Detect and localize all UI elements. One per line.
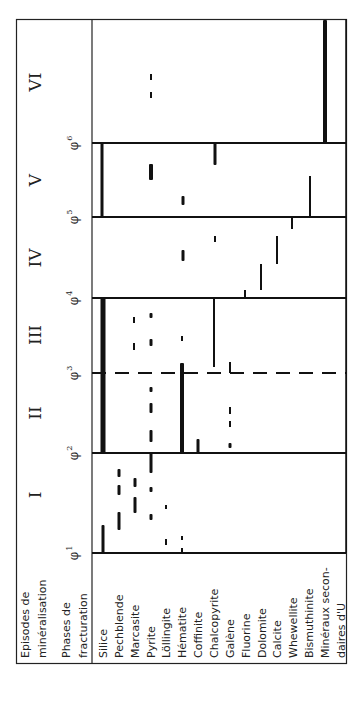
bar-galène bbox=[229, 407, 231, 414]
bar-silice bbox=[101, 298, 106, 453]
bar-minéraux-secondaires-d-u bbox=[323, 20, 327, 143]
bar-marcasite bbox=[134, 497, 137, 513]
bar-pyrite bbox=[149, 164, 153, 180]
bar-pyrite bbox=[150, 74, 152, 80]
mineral-label: Marcasite bbox=[129, 605, 142, 658]
bar-marcasite bbox=[133, 317, 135, 323]
bar-pyrite bbox=[150, 387, 153, 392]
bar-bismuthinite bbox=[309, 176, 311, 217]
bar-pechblende bbox=[118, 469, 121, 477]
episode-label: IV bbox=[25, 248, 45, 268]
bar-chalcopyrite bbox=[214, 143, 217, 165]
mineral-paragenesis-diagram: IIIIIIIVVVI φ1φ2φ3φ4φ5φ6 SilicePechblend… bbox=[0, 0, 361, 708]
episode-label: I bbox=[25, 492, 45, 499]
bar-pyrite bbox=[150, 92, 152, 98]
header-label: fracturation bbox=[77, 593, 90, 658]
episode-label: VI bbox=[25, 73, 45, 93]
bar-coffinite bbox=[197, 439, 200, 453]
bar-hématite bbox=[181, 336, 183, 341]
header-label: Phases de bbox=[60, 602, 73, 658]
bar-löllingite bbox=[165, 505, 167, 509]
mineral-label: daires d'U bbox=[335, 603, 348, 658]
bar-galène bbox=[229, 421, 231, 427]
mineral-label: Bismuthinite bbox=[303, 588, 316, 658]
mineral-label: Dolomite bbox=[256, 608, 269, 658]
bar-pechblende bbox=[118, 485, 121, 495]
bar-galène bbox=[229, 443, 232, 448]
bar-hématite bbox=[180, 363, 184, 453]
mineral-label: Minéraux secon- bbox=[319, 567, 332, 658]
mineral-label: Silice bbox=[97, 629, 110, 658]
episode-label: III bbox=[25, 325, 45, 345]
mineral-label: Hématite bbox=[176, 607, 189, 658]
bar-pyrite bbox=[150, 487, 153, 492]
bar-hématite bbox=[182, 250, 185, 261]
mineral-label: Whewellite bbox=[287, 597, 300, 658]
bar-fluorine bbox=[244, 290, 246, 298]
bar-silice bbox=[101, 143, 104, 217]
bar-pechblende bbox=[118, 512, 121, 530]
bar-calcite bbox=[276, 236, 278, 264]
header-label: Episodes de bbox=[19, 592, 32, 658]
bar-dolomite bbox=[260, 264, 262, 290]
bar-chalcopyrite bbox=[213, 298, 215, 367]
mineral-label: Coffinite bbox=[192, 612, 205, 658]
mineral-label: Pechblende bbox=[113, 594, 126, 658]
episode-label: V bbox=[25, 173, 45, 187]
episode-label: II bbox=[25, 406, 45, 419]
bar-pyrite bbox=[150, 514, 153, 520]
bar-chalcopyrite bbox=[214, 236, 216, 242]
bar-pyrite bbox=[150, 403, 153, 413]
bar-silice bbox=[102, 525, 105, 553]
header-label: minéralisation bbox=[36, 580, 49, 658]
bar-hématite bbox=[181, 548, 183, 553]
mineral-label: Calcite bbox=[271, 620, 284, 658]
bar-löllingite bbox=[165, 539, 167, 545]
bar-hématite bbox=[182, 196, 185, 205]
mineral-label: Pyrite bbox=[145, 626, 158, 658]
bar-galène bbox=[229, 362, 231, 373]
bar-marcasite bbox=[134, 478, 137, 487]
mineral-label: Fluorine bbox=[240, 613, 253, 658]
bar-whewellite bbox=[291, 217, 293, 229]
mineral-label: Galène bbox=[224, 619, 237, 658]
bar-hématite bbox=[181, 536, 183, 540]
bar-pyrite bbox=[150, 339, 153, 346]
bar-marcasite bbox=[133, 343, 135, 350]
mineral-label: Chalcopyrite bbox=[208, 588, 221, 658]
bar-pyrite bbox=[150, 313, 153, 318]
bar-pyrite bbox=[150, 430, 153, 442]
mineral-label: Löllingite bbox=[160, 608, 173, 658]
bar-pyrite bbox=[150, 453, 153, 473]
